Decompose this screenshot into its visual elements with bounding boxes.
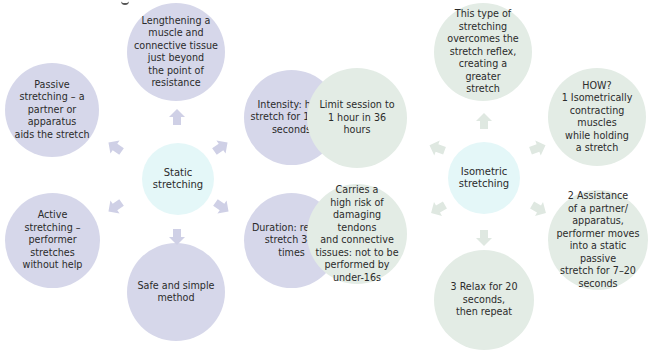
arrow-up-right-icon: [208, 134, 233, 159]
isometric-center-node: Isometric stretching: [448, 142, 520, 214]
static-center-label: Static stretching: [148, 167, 208, 192]
static-node-top-left: Passive stretching – a partner or appara…: [5, 63, 99, 157]
isometric-center-label: Isometric stretching: [459, 166, 509, 191]
cropped-heading-fragment: [121, 0, 129, 5]
arrow-up-icon: [168, 108, 186, 126]
isometric-node-top: This type of stretching overcomes the st…: [434, 3, 532, 101]
isometric-node-bottom: 3 Relax for 20 seconds, then repeat: [434, 250, 534, 350]
static-node-top: Lengthening a muscle and connective tiss…: [127, 3, 225, 101]
arrow-down-icon: [475, 229, 493, 247]
static-node-top-left-text: Passive stretching – a partner or appara…: [15, 79, 90, 142]
static-node-bottom-left-text: Active stretching – performer stretches …: [11, 209, 94, 272]
static-node-bottom-left: Active stretching – performer stretches …: [5, 193, 100, 288]
arrow-down-left-icon: [102, 194, 127, 219]
arrow-down-right-icon: [209, 194, 234, 219]
isometric-node-top-right-text: HOW? 1 Isometrically contracting muscles…: [554, 80, 640, 155]
isometric-node-top-left: Limit session to 1 hour in 36 hours: [307, 68, 407, 168]
isometric-node-bottom-left: Carries a high risk of damaging tendons …: [307, 184, 407, 284]
isometric-node-bottom-left-text: Carries a high risk of damaging tendons …: [313, 184, 401, 284]
arrow-up-left-icon: [102, 134, 127, 159]
isometric-node-top-text: This type of stretching overcomes the st…: [440, 8, 526, 96]
isometric-node-top-right: HOW? 1 Isometrically contracting muscles…: [548, 68, 646, 166]
arrow-up-right-icon: [526, 136, 549, 159]
static-node-top-text: Lengthening a muscle and connective tiss…: [134, 15, 218, 90]
isometric-node-bottom-right-text: 2 Assistance of a partner/ apparatus, pe…: [554, 190, 642, 290]
arrow-down-icon: [168, 228, 186, 246]
isometric-node-bottom-text: 3 Relax for 20 seconds, then repeat: [450, 281, 517, 319]
static-node-bottom: Safe and simple method: [127, 243, 225, 341]
arrow-up-left-icon: [425, 136, 448, 159]
static-node-bottom-text: Safe and simple method: [137, 280, 214, 305]
static-center-node: Static stretching: [142, 143, 214, 215]
arrow-up-icon: [475, 112, 493, 130]
arrow-down-left-icon: [426, 197, 451, 222]
isometric-node-bottom-right: 2 Assistance of a partner/ apparatus, pe…: [548, 190, 648, 290]
isometric-node-top-left-text: Limit session to 1 hour in 36 hours: [313, 99, 401, 137]
arrow-down-right-icon: [527, 197, 552, 222]
